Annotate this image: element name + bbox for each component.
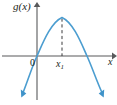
y-axis-arrowhead bbox=[34, 2, 41, 7]
vertex-x-label: x1 bbox=[56, 59, 64, 71]
origin-label: 0 bbox=[30, 58, 35, 68]
graph-figure: g(x) 0 x1 x bbox=[0, 0, 117, 105]
plot-canvas bbox=[0, 0, 117, 105]
y-axis-function-label: g(x) bbox=[13, 1, 31, 12]
vertex-x-label-subscript: 1 bbox=[60, 63, 64, 71]
x-axis-label: x bbox=[108, 57, 112, 67]
x-axis-arrowhead bbox=[112, 53, 117, 60]
